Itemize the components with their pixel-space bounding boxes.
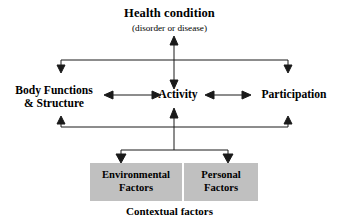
bottom-bracket-right-arrowhead-icon <box>284 116 292 124</box>
body-activity-right-arrowhead-icon <box>152 91 161 99</box>
contextual-activity-arrowhead-icon <box>170 108 178 118</box>
body-activity-left-arrowhead-icon <box>104 91 113 99</box>
bottom-bracket-left-arrowhead-icon <box>57 116 65 124</box>
health-activity-up-arrowhead-icon <box>170 36 178 45</box>
activity-participation-right-arrowhead-icon <box>242 91 251 99</box>
health-activity-down-arrowhead-icon <box>170 80 178 89</box>
icf-diagram: Health condition (disorder or disease) B… <box>0 0 339 223</box>
activity-participation-left-arrowhead-icon <box>205 91 214 99</box>
contextual-environmental-arrowhead-icon <box>116 154 126 163</box>
connector-layer <box>0 0 339 223</box>
contextual-personal-arrowhead-icon <box>223 154 233 163</box>
top-bracket-left-arrowhead-icon <box>57 65 65 73</box>
top-bracket-right-arrowhead-icon <box>284 65 292 73</box>
